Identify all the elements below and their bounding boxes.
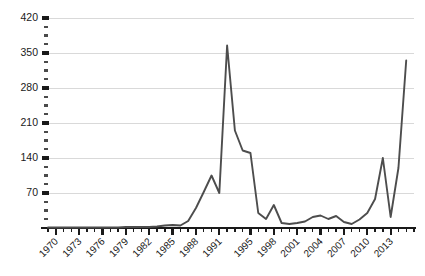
chart-background bbox=[0, 0, 425, 276]
y-axis-tick-label: 350 bbox=[20, 46, 38, 58]
y-axis-tick-label: 280 bbox=[20, 81, 38, 93]
line-chart: 70140210280350420 1970197319761979198219… bbox=[0, 0, 425, 276]
y-axis-tick-label: 70 bbox=[26, 186, 38, 198]
y-axis-tick-label: 420 bbox=[20, 11, 38, 23]
y-axis-tick-label: 140 bbox=[20, 151, 38, 163]
chart-container: 70140210280350420 1970197319761979198219… bbox=[0, 0, 425, 276]
y-axis-tick-label: 210 bbox=[20, 116, 38, 128]
